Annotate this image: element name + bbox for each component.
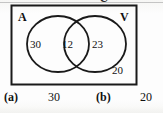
answer-b-value: 20 (140, 90, 152, 105)
answer-a-key: (a) (4, 90, 18, 105)
region-count-intersection: 12 (62, 38, 73, 50)
region-count-v-only: 23 (92, 38, 103, 50)
set-label-v: V (120, 10, 129, 25)
figure-page: U A V 30 12 23 20 (a) 30 (b) 20 (0, 0, 163, 113)
answer-b-key: (b) (96, 90, 111, 105)
answer-a-value: 30 (48, 90, 60, 105)
bottom-fade (0, 107, 163, 113)
region-count-outside-circles: 20 (112, 64, 123, 76)
set-label-a: A (18, 10, 27, 25)
region-count-a-only: 30 (30, 38, 41, 50)
